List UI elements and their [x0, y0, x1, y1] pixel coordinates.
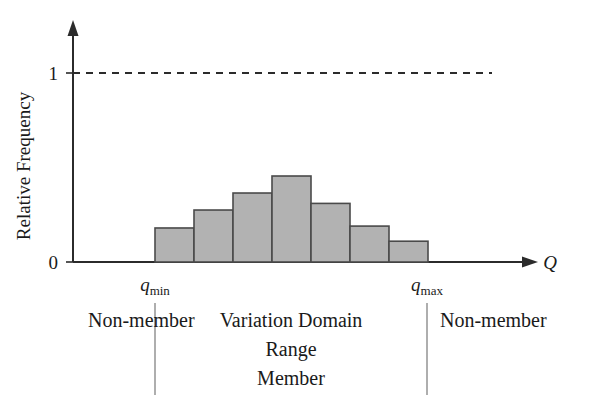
x-axis-arrowhead	[522, 257, 538, 268]
table-row	[194, 210, 233, 262]
region-middle-line2: Range	[265, 338, 316, 361]
table-row	[389, 241, 428, 262]
table-row	[155, 228, 194, 262]
table-row	[311, 203, 350, 262]
y-tick-label-one: 1	[49, 63, 59, 84]
table-row	[350, 226, 389, 262]
y-axis-group	[68, 20, 79, 262]
region-middle-line3: Member	[257, 367, 325, 389]
bars-group	[155, 176, 428, 262]
chart-canvas: 0 1 Relative Frequency Q qmin qmax	[0, 0, 590, 405]
region-label-right: Non-member	[440, 309, 547, 331]
region-label-middle: Variation Domain Range Member	[220, 309, 363, 389]
q-max-subscript: max	[421, 283, 444, 298]
q-min-label: qmin	[140, 274, 170, 298]
table-row	[272, 176, 311, 262]
q-min-base: q	[140, 274, 150, 295]
y-tick-marks	[66, 73, 73, 262]
region-label-left: Non-member	[88, 309, 195, 331]
x-axis-title: Q	[543, 252, 557, 273]
table-row	[233, 193, 272, 262]
y-axis-arrowhead	[68, 20, 79, 36]
y-axis-title: Relative Frequency	[13, 91, 34, 240]
y-tick-label-zero: 0	[49, 252, 59, 273]
q-max-label: qmax	[411, 274, 443, 298]
q-min-subscript: min	[150, 283, 171, 298]
q-max-base: q	[411, 274, 421, 295]
histogram-figure: 0 1 Relative Frequency Q qmin qmax	[0, 0, 590, 405]
region-middle-line1: Variation Domain	[220, 309, 363, 331]
